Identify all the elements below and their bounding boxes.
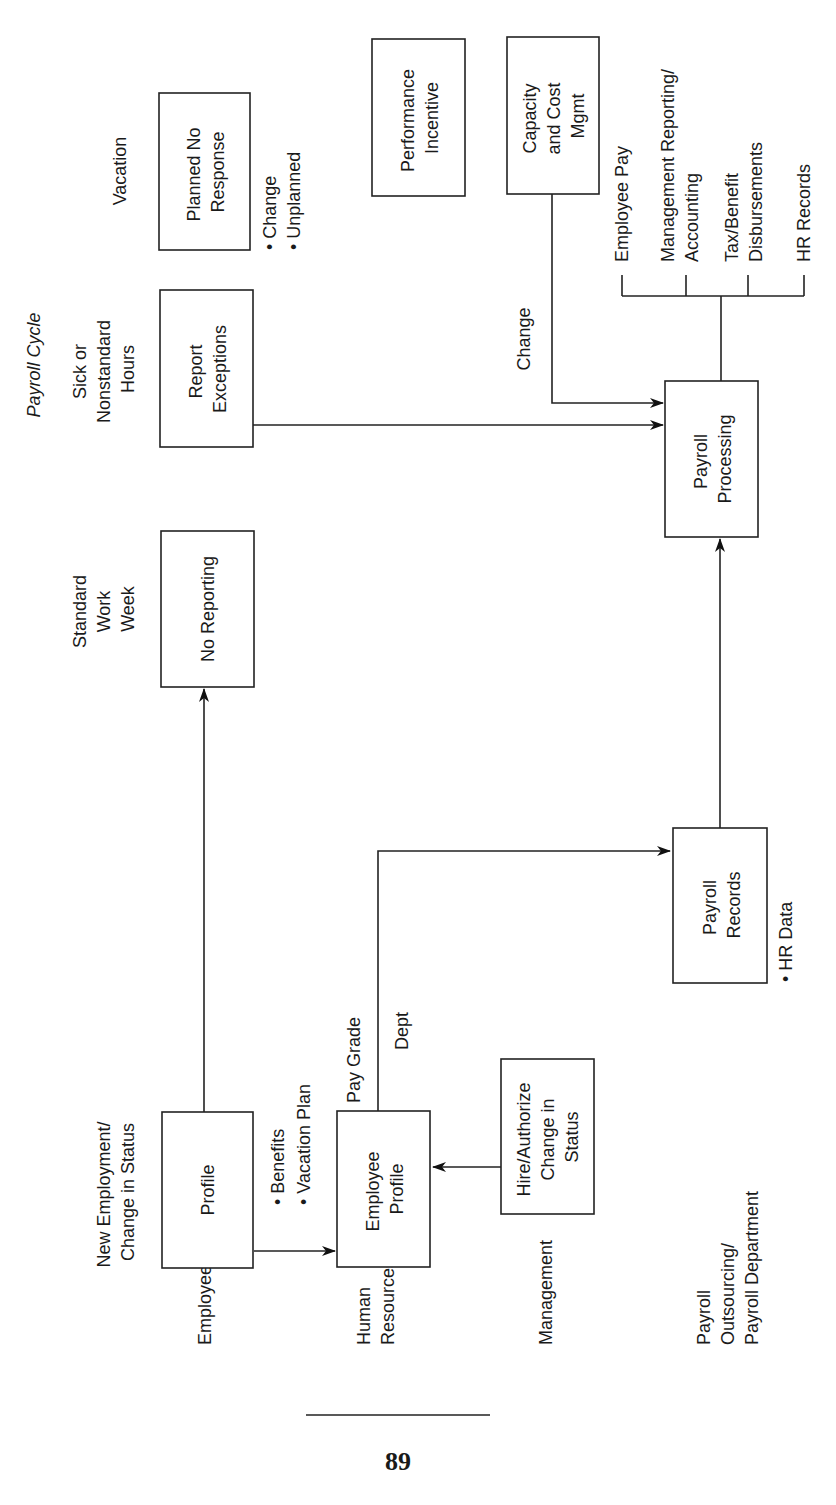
edge-capacity-to-processing xyxy=(552,194,663,403)
header-sick-nonstandard: Sick or Nonstandard Hours xyxy=(70,315,138,423)
node-performance-incentive: Performance Incentive xyxy=(372,39,465,196)
svg-text:Profile: Profile xyxy=(198,1164,218,1215)
node-capacity-cost-mgmt: Capacity and Cost Mgmt xyxy=(507,37,599,194)
diagram-page: 89 Payroll Cycle New Employment/ Change … xyxy=(0,0,836,1505)
change-label: Change xyxy=(514,307,534,370)
node-planned-no-response: Planned No Response xyxy=(159,93,250,250)
page-number: 89 xyxy=(385,1447,411,1476)
header-vacation: Vacation xyxy=(110,137,130,206)
lane-management: Management xyxy=(536,1240,556,1345)
node-profile: Profile xyxy=(162,1112,253,1268)
lane-payroll-dept: Payroll Outsourcing/ Payroll Department xyxy=(694,1191,762,1345)
lane-human-resources: Human Resources xyxy=(354,1259,398,1345)
vacation-bullets: • Change • Unplanned xyxy=(260,152,304,250)
output-tax-benefit: Tax/Benefit Disbursements xyxy=(722,142,766,262)
node-employee-profile: Employee Profile xyxy=(337,1111,430,1267)
lane-employee: Employee xyxy=(195,1265,215,1345)
hr-data-label: • HR Data xyxy=(776,901,796,982)
node-payroll-records: Payroll Records xyxy=(673,828,767,983)
node-hire-authorize: Hire/Authorize Change in Status xyxy=(501,1059,594,1214)
output-hr-records: HR Records xyxy=(794,164,814,262)
output-employee-pay: Employee Pay xyxy=(612,146,632,262)
pay-grade-label: Pay Grade xyxy=(344,1017,364,1103)
flow-diagram: Payroll Cycle New Employment/ Change in … xyxy=(24,37,814,1345)
output-management-reporting: Management Reporting/ Accounting xyxy=(658,64,702,262)
benefits-vacation-annotation: • Benefits • Vacation Plan xyxy=(268,1084,314,1205)
dept-label: Dept xyxy=(392,1012,412,1050)
header-standard-work-week: Standard Work Week xyxy=(70,570,138,648)
header-new-employment: New Employment/ Change in Status xyxy=(94,1116,138,1267)
node-no-reporting: No Reporting xyxy=(161,531,254,687)
node-payroll-processing: Payroll Processing xyxy=(665,381,758,537)
payroll-cycle-heading: Payroll Cycle xyxy=(24,312,44,417)
node-report-exceptions: Report Exceptions xyxy=(160,290,253,447)
svg-text:No Reporting: No Reporting xyxy=(198,556,218,662)
